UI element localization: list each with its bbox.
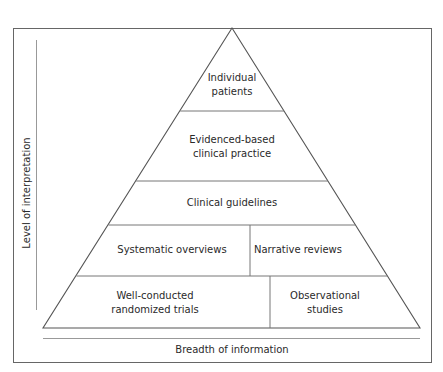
label-line: Evidenced-based bbox=[189, 133, 275, 147]
evidence-pyramid-diagram: Individual patients Evidenced-based clin… bbox=[0, 0, 443, 372]
label-line: Systematic overviews bbox=[117, 243, 226, 257]
tier-individual-patients: Individual patients bbox=[208, 71, 257, 99]
label-line: studies bbox=[290, 303, 360, 317]
tier-narrative-reviews: Narrative reviews bbox=[254, 243, 342, 257]
x-axis-label: Breadth of information bbox=[175, 343, 288, 357]
tier-clinical-guidelines: Clinical guidelines bbox=[187, 196, 277, 210]
tier-observational-studies: Observational studies bbox=[290, 289, 360, 317]
label-line: randomized trials bbox=[111, 303, 198, 317]
label-line: Well-conducted bbox=[111, 289, 198, 303]
label-line: Individual bbox=[208, 71, 257, 85]
label-line: Observational bbox=[290, 289, 360, 303]
tier-randomized-trials: Well-conducted randomized trials bbox=[111, 289, 198, 317]
y-axis-label: Level of interpretation bbox=[21, 137, 32, 248]
tier-evidence-based-practice: Evidenced-based clinical practice bbox=[189, 133, 275, 161]
label-line: Narrative reviews bbox=[254, 243, 342, 257]
label-line: patients bbox=[208, 85, 257, 99]
tier-systematic-overviews: Systematic overviews bbox=[117, 243, 226, 257]
label-line: Clinical guidelines bbox=[187, 196, 277, 210]
pyramid-graphic bbox=[0, 0, 443, 372]
label-line: clinical practice bbox=[189, 147, 275, 161]
